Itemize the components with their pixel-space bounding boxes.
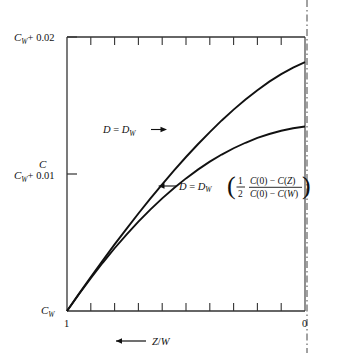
formula-paren-close: ) [302,171,311,200]
figure-container: CW+ 0.02 C CW+ 0.01 CW 1 0 Z/W D = DW [0,0,346,353]
annotation-lower-curve: D = DW ( 1 2 C(0) − C(Z) C(0) − C(W) ) [158,171,311,200]
svg-text:CW+ 0.01: CW+ 0.01 [14,169,55,184]
y-tick-label-bottom: CW [41,304,55,319]
svg-text:D = DW: D = DW [102,124,136,138]
svg-text:C: C [39,158,47,170]
formula-expression: ( 1 2 C(0) − C(Z) C(0) − C(W) ) [227,171,311,200]
svg-text:Z/W: Z/W [152,336,171,347]
x-tick-label-zero: 0 [302,318,307,329]
formula-fraction-denominator: C(0) − C(W) [250,189,298,200]
x-axis-ticks [91,303,281,311]
formula-coefficient-denominator: 2 [238,189,243,199]
x-axis-title: Z/W [116,336,171,347]
svg-text:CW+ 0.02: CW+ 0.02 [14,31,55,46]
top-axis-ticks [91,37,281,45]
svg-text:CW: CW [41,304,55,319]
y-axis-title: C [39,158,47,170]
annotation-upper-curve: D = DW [102,124,167,138]
y-tick-label-mid: CW+ 0.01 [14,169,55,184]
formula-fraction-numerator: C(0) − C(Z) [250,176,296,187]
x-tick-label-one: 1 [64,318,69,329]
formula-paren-open: ( [227,171,236,200]
chart-svg: CW+ 0.02 C CW+ 0.01 CW 1 0 Z/W D = DW [0,0,346,353]
formula-coefficient-numerator: 1 [238,176,243,186]
curve-d-equals-dw-scaled [67,126,305,311]
upper-label-arrow-head [161,127,168,132]
svg-text:D = DW: D = DW [178,181,212,195]
y-tick-label-top: CW+ 0.02 [14,31,55,46]
